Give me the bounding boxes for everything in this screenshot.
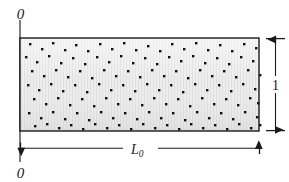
particle-dot [46,123,48,125]
particle-dot [75,44,77,46]
particle-dot [33,98,35,100]
particle-dot [29,43,31,45]
particle-dot [141,104,143,106]
particle-dot [67,76,69,78]
particle-dot [247,69,249,71]
particle-dot [184,119,186,121]
particle-dot [240,56,242,58]
particle-dot [220,112,222,114]
particle-dot [249,97,251,99]
particle-dot [41,48,43,50]
particle-dot [160,117,162,119]
particle-dot [158,89,160,91]
particle-dot [207,49,209,51]
particle-dot [96,56,98,58]
particle-dot [256,116,258,118]
particle-dot [127,70,129,72]
particle-dot [147,45,149,47]
particle-dot [178,128,180,130]
particle-dot [171,43,173,45]
mechanics-specimen-diagram: 1 L0 0 0 [0,0,289,182]
particle-dot [232,118,234,120]
particle-dot [94,123,96,125]
specimen-shading [20,38,259,131]
particle-dot [103,69,105,71]
particle-dot [81,98,83,100]
particle-dot [175,70,177,72]
particle-dot [64,118,66,120]
particle-dot [170,84,172,86]
particle-dot [48,55,50,57]
particle-dot [202,127,204,129]
particle-dot [190,123,192,125]
particle-dot [213,103,215,105]
particle-dot [111,48,113,50]
particle-dot [223,70,225,72]
particle-dot [25,56,27,58]
particle-dot [98,83,100,85]
length-dimension-subscript: 0 [139,149,144,159]
particle-dot [194,83,196,85]
particle-dot [206,89,208,91]
origin-label-top: 0 [17,6,25,22]
particle-dot [242,83,244,85]
particle-dot [74,84,76,86]
particle-dot [87,50,89,52]
height-dimension-label: 1 [272,78,279,93]
particle-dot [252,60,254,62]
particle-dot [64,49,66,51]
particle-dot [117,103,119,105]
particle-dot [163,75,165,77]
particle-dot [100,111,102,113]
particle-dot [50,83,52,85]
particle-dot [195,42,197,44]
particle-dot [218,84,220,86]
particle-dot [139,76,141,78]
particle-dot [154,127,156,129]
particle-dot [238,123,240,125]
particle-dot [31,70,33,72]
origin-label-bottom: 0 [17,165,25,181]
particle-dot [199,69,201,71]
particle-dot [144,57,146,59]
particle-dot [34,125,36,127]
particle-dot [196,111,198,113]
particle-dot [231,50,233,52]
particle-dot [250,127,252,129]
particle-dot [28,112,30,114]
particle-dot [86,91,88,93]
particle-dot [168,56,170,58]
particle-dot [142,123,144,125]
particle-dot [45,103,47,105]
particle-dot [27,84,29,86]
particle-dot [84,63,86,65]
particle-dot [214,124,216,126]
particle-dot [99,43,101,45]
particle-dot [148,111,150,113]
particle-dot [201,97,203,99]
particle-dot [180,60,182,62]
particle-dot [123,42,125,44]
particle-dot [132,62,134,64]
particle-dot [166,124,168,126]
particle-dot [76,112,78,114]
particle-dot [40,117,42,119]
particle-dot [192,55,194,57]
particle-dot [69,104,71,106]
particle-dot [134,90,136,92]
particle-dot [230,90,232,92]
particle-dot [136,118,138,120]
particle-dot [124,112,126,114]
particle-dot [88,119,90,121]
particle-dot [93,105,95,107]
particle-dot [38,89,40,91]
particle-dot [151,69,153,71]
particle-dot [105,97,107,99]
particle-dot [187,77,189,79]
particle-dot [204,62,206,64]
particle-dot [216,57,218,59]
particle-dot [135,49,137,51]
length-dimension-label: L0 [130,142,144,159]
particle-dot [211,75,213,77]
particle-dot [237,104,239,106]
